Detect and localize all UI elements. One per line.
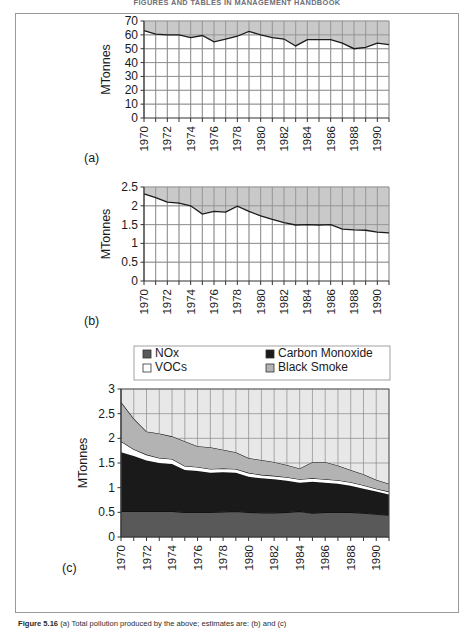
x-tick-label: 1988 [345, 545, 357, 571]
y-tick-label: 0 [108, 530, 115, 544]
panel-label: (a) [84, 151, 99, 165]
figure-page: FIGURES AND TABLES IN MANAGEMENT HANDBOO… [0, 0, 474, 630]
x-tick-label: 1980 [255, 289, 267, 315]
figure-caption-label: Figure 5.16 [18, 619, 58, 628]
x-tick-label: 1978 [231, 126, 243, 152]
x-tick-label: 1990 [371, 289, 383, 315]
y-tick-label: 40 [125, 56, 139, 70]
y-tick-label: 60 [125, 28, 139, 42]
legend-label: VOCs [155, 360, 187, 374]
x-tick-label: 1970 [115, 545, 127, 571]
y-tick-label: 0.5 [121, 255, 138, 269]
x-tick-label: 1990 [370, 545, 382, 571]
y-tick-label: 50 [125, 42, 139, 56]
y-tick-label: 10 [125, 97, 139, 111]
x-tick-label: 1980 [243, 545, 255, 571]
x-tick-label: 1984 [294, 544, 306, 570]
legend-item: Black Smoke [266, 360, 348, 374]
x-tick-label: 1972 [161, 289, 173, 315]
y-axis-title: MTonnes [76, 438, 90, 489]
y-tick-label: 20 [125, 83, 139, 97]
chart-panel-a: 0102030405060701970197219741976197819801… [16, 14, 460, 179]
x-tick-label: 1978 [217, 545, 229, 571]
x-tick-label: 1976 [208, 289, 220, 315]
x-tick-label: 1990 [371, 126, 383, 152]
y-tick-label: 1 [131, 236, 138, 250]
legend-label: NOx [155, 346, 179, 360]
x-tick-label: 1974 [166, 544, 178, 570]
x-tick-label: 1970 [138, 126, 150, 152]
legend-swatch [266, 364, 274, 372]
x-tick-label: 1986 [325, 126, 337, 152]
panel-label: (c) [62, 561, 77, 575]
x-tick-label: 1984 [301, 125, 313, 151]
y-axis-title: MTonnes [99, 44, 113, 95]
y-axis-title: MTonnes [99, 209, 113, 260]
x-tick-label: 1974 [185, 125, 197, 151]
x-tick-label: 1986 [325, 289, 337, 315]
y-tick-label: 70 [125, 14, 139, 28]
y-tick-label: 0.5 [98, 505, 115, 519]
legend-item: Carbon Monoxide [266, 346, 373, 360]
x-tick-label: 1986 [319, 545, 331, 571]
x-tick-label: 1976 [192, 545, 204, 571]
figure-caption: Figure 5.16 (a) Total pollution produced… [18, 619, 458, 629]
y-tick-label: 0 [131, 274, 138, 288]
x-tick-label: 1972 [161, 126, 173, 152]
x-tick-label: 1988 [348, 126, 360, 152]
y-tick-label: 1.5 [121, 218, 138, 232]
y-tick-label: 1.5 [98, 456, 115, 470]
x-tick-label: 1980 [255, 126, 267, 152]
x-tick-label: 1978 [231, 289, 243, 315]
x-tick-label: 1988 [348, 289, 360, 315]
legend-swatch [143, 364, 151, 372]
y-tick-label: 2 [131, 199, 138, 213]
y-tick-label: 0 [131, 111, 138, 125]
legend-label: Carbon Monoxide [278, 346, 373, 360]
running-head: FIGURES AND TABLES IN MANAGEMENT HANDBOO… [0, 0, 474, 8]
chart-legend: NOxCarbon MonoxideVOCsBlack Smoke [134, 346, 390, 380]
x-tick-label: 1982 [278, 126, 290, 152]
chart-panel-b: 00.511.522.51970197219741976197819801982… [16, 177, 460, 342]
x-tick-label: 1974 [185, 288, 197, 314]
chart-panel-b: 00.511.522.51970197219741976197819801982… [16, 177, 460, 342]
y-tick-label: 30 [125, 69, 139, 83]
x-tick-label: 1976 [208, 126, 220, 152]
legend-label: Black Smoke [278, 360, 348, 374]
y-tick-label: 3 [108, 382, 115, 396]
y-tick-label: 2.5 [121, 180, 138, 194]
x-tick-label: 1970 [138, 289, 150, 315]
x-tick-label: 1982 [278, 289, 290, 315]
x-tick-label: 1972 [141, 545, 153, 571]
legend-swatch [143, 350, 151, 358]
y-tick-label: 2 [108, 431, 115, 445]
x-tick-label: 1982 [268, 545, 280, 571]
x-tick-label: 1984 [301, 288, 313, 314]
panel-label: (b) [84, 314, 99, 328]
figure-frame: 0102030405060701970197219741976197819801… [15, 13, 459, 613]
chart-panel-c: NOxCarbon MonoxideVOCsBlack Smoke00.511.… [16, 344, 460, 612]
y-tick-label: 1 [108, 481, 115, 495]
series-area-nox [121, 511, 389, 537]
figure-caption-text: (a) Total pollution produced by the abov… [60, 619, 286, 628]
y-tick-label: 2.5 [98, 407, 115, 421]
legend-swatch [266, 350, 274, 358]
chart-panel-c: NOxCarbon MonoxideVOCsBlack Smoke00.511.… [16, 344, 460, 612]
chart-panel-a: 0102030405060701970197219741976197819801… [16, 14, 460, 179]
